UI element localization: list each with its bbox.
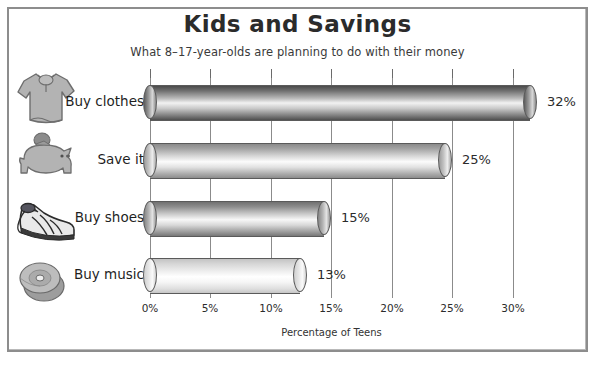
bar-buy-music xyxy=(150,258,307,292)
bar-value-buy-music: 13% xyxy=(317,267,346,282)
x-tick-label-30: 30% xyxy=(501,302,524,314)
bar-value-buy-clothes: 32% xyxy=(547,94,576,109)
bar-buy-clothes xyxy=(150,85,537,119)
bar-body xyxy=(150,143,445,179)
x-tick-label-10: 10% xyxy=(259,302,282,314)
bar-cap-right xyxy=(438,143,452,177)
tickmark-20 xyxy=(392,69,393,78)
plot-area: 0% 5% 10% 15% 20% 25% 30% 32% 25% 15% xyxy=(150,78,513,298)
bar-cap-right xyxy=(523,85,537,119)
bar-body xyxy=(150,201,324,237)
bar-value-save-it: 25% xyxy=(462,152,491,167)
x-tick-label-5: 5% xyxy=(202,302,219,314)
chart-page: Kids and Savings What 8–17-year-olds are… xyxy=(0,0,595,365)
x-axis-title: Percentage of Teens xyxy=(150,327,513,338)
bar-cap-left xyxy=(143,201,157,235)
category-label-save-it: Save it xyxy=(98,151,144,167)
bar-body xyxy=(150,258,300,294)
tickmark-10 xyxy=(271,69,272,78)
x-tick-label-0: 0% xyxy=(142,302,159,314)
category-label-buy-music: Buy music xyxy=(74,266,144,282)
tickmark-15 xyxy=(331,69,332,78)
tickmark-5 xyxy=(210,69,211,78)
page-title: Kids and Savings xyxy=(0,11,595,37)
tickmark-30 xyxy=(513,69,514,78)
x-tick-label-15: 15% xyxy=(319,302,342,314)
bar-cap-right xyxy=(317,201,331,235)
tickmark-25 xyxy=(452,69,453,78)
bar-cap-right xyxy=(293,258,307,292)
compact-disc-icon xyxy=(14,254,78,310)
bar-buy-shoes xyxy=(150,201,331,235)
bar-cap-left xyxy=(143,85,157,119)
tickmark-0 xyxy=(150,69,151,78)
piggy-bank-icon xyxy=(14,131,78,185)
category-label-buy-shoes: Buy shoes xyxy=(75,209,144,225)
x-tick-label-25: 25% xyxy=(440,302,463,314)
x-tick-label-20: 20% xyxy=(380,302,403,314)
shoe-icon xyxy=(14,195,78,249)
page-subtitle: What 8–17-year-olds are planning to do w… xyxy=(0,45,595,59)
bar-value-buy-shoes: 15% xyxy=(341,210,370,225)
bar-body xyxy=(150,85,530,121)
bar-cap-left xyxy=(143,143,157,177)
bar-cap-left xyxy=(143,258,157,292)
bar-save-it xyxy=(150,143,452,177)
category-label-buy-clothes: Buy clothes xyxy=(65,93,144,109)
